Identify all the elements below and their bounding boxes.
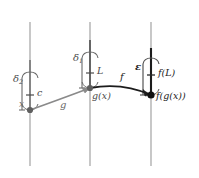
- label-delta2: δ2: [13, 74, 23, 85]
- label-f-of-L: f(L): [158, 68, 175, 78]
- label-x: x: [19, 100, 24, 109]
- label-c: c: [37, 88, 42, 98]
- math-diagram-figure: δ2 δ1 ε c L f(L) x g(x) f(g(x)) g f: [0, 0, 199, 178]
- label-g-of-x: g(x): [92, 91, 111, 101]
- label-delta1: δ1: [73, 53, 83, 64]
- label-epsilon: ε: [135, 62, 141, 72]
- label-L: L: [97, 66, 103, 76]
- label-f-map: f: [120, 72, 124, 82]
- point-x: [27, 107, 33, 113]
- label-g-map: g: [60, 100, 66, 110]
- diagram-canvas: [0, 0, 199, 178]
- label-f-of-g-of-x: f(g(x)): [156, 91, 186, 101]
- point-fgx: [147, 91, 154, 98]
